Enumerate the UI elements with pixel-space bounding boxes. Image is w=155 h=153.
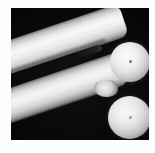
lower-ball-center-dot: [129, 116, 132, 119]
figure-page: [0, 0, 155, 153]
lower-ball-tip: [108, 96, 149, 139]
upper-ball-tip: [110, 42, 149, 82]
upper-ball-center-dot: [129, 60, 132, 63]
micrograph-plate: [11, 8, 149, 140]
prong-waist-junction: [94, 80, 118, 97]
